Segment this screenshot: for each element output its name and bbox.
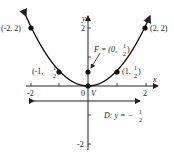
label-neg1-half: (-1, xyxy=(32,67,43,76)
origin-label: 0 xyxy=(81,89,85,98)
point-2-2 xyxy=(142,25,147,30)
frac-num: 1 xyxy=(134,65,137,71)
x-tick-2: 2 xyxy=(143,89,147,98)
x-tick-neg2: -2 xyxy=(27,89,34,98)
y-tick-2: 2 xyxy=(81,24,85,33)
parabola-diagram: (-2, 2) (2, 2) (-1, 1 2 ) (1, 1 2 ) F = … xyxy=(0,0,174,158)
focus-label: F = (0, xyxy=(93,45,117,54)
focus-point xyxy=(85,69,90,74)
vertex-point xyxy=(85,83,90,88)
label-1-half: (1, xyxy=(122,67,131,76)
point-1-half xyxy=(114,69,119,74)
label-2-2: (2, 2) xyxy=(150,24,168,33)
frac-den: 2 xyxy=(53,73,56,79)
paren: ) xyxy=(138,67,141,76)
focus-pointer-arrow xyxy=(91,53,100,68)
y-axis-label: y xyxy=(81,14,86,23)
point-neg2-2 xyxy=(28,25,33,30)
frac-den: 2 xyxy=(139,117,142,123)
paren: ) xyxy=(57,67,60,76)
frac-num: 1 xyxy=(53,65,56,71)
label-neg2-2: (-2, 2) xyxy=(1,24,21,33)
x-axis-label: x xyxy=(152,75,157,84)
frac-den: 2 xyxy=(123,51,126,57)
frac-num: 1 xyxy=(123,43,126,49)
vertex-label: V xyxy=(91,89,97,98)
y-tick-neg2: -2 xyxy=(77,140,84,149)
paren: ) xyxy=(127,45,130,54)
frac-den: 2 xyxy=(134,73,137,79)
directrix-label: D: y = − xyxy=(103,111,133,120)
frac-num: 1 xyxy=(139,109,142,115)
